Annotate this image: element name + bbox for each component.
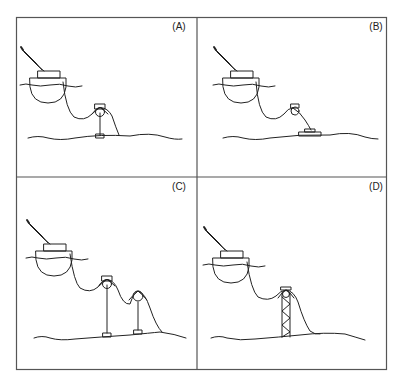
panel-label-c: (C): [172, 181, 186, 192]
vessel-crane-icon: [213, 47, 275, 103]
seabed: [211, 333, 365, 340]
vessel-crane-icon: [203, 227, 265, 283]
pipe: [256, 82, 311, 130]
panel-a: (A): [20, 21, 186, 140]
vessel-crane-icon: [20, 47, 82, 103]
panel-label-d: (D): [369, 181, 383, 192]
panel-d: (D): [203, 181, 383, 340]
lattice-tower-icon: [278, 287, 294, 337]
panel-label-a: (A): [172, 21, 185, 32]
panel-c: (C): [26, 181, 186, 340]
vessel-crane-icon: [26, 220, 88, 276]
seabed: [28, 134, 182, 139]
panel-label-b: (B): [369, 21, 382, 32]
pipe: [70, 254, 162, 332]
pipe: [63, 82, 119, 135]
panel-b: (B): [213, 21, 383, 140]
figure-frame: [17, 18, 387, 370]
figure: (A) (B) (C): [0, 0, 400, 382]
